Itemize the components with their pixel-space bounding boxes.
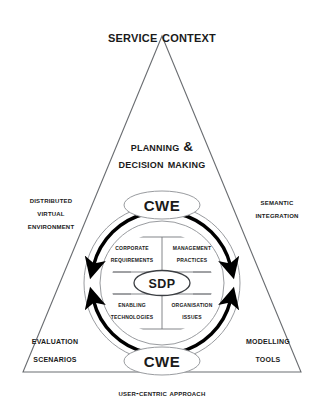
quadrant-label-management-practices-line1: Management [173,244,211,251]
planning-label-line1: Planning & [131,139,194,154]
base-caption: User-Centric Approach [119,389,206,398]
quadrant-label-corporate-requirements-line1: Corporate [115,244,149,251]
apex-title: Service Context [108,28,216,45]
quadrant-label-organisation-issues-line2: Issues [182,313,202,320]
cwe-bottom-label: CWE [144,353,181,370]
diagram-root: Service Context Planning & Decision Maki… [0,0,323,410]
service-context-diagram: Service Context Planning & Decision Maki… [0,0,323,410]
planning-label-line2: Decision Making [119,156,206,171]
evaluation-label-line2: Scenarios [33,353,77,364]
quadrant-label-enabling-technologies-line1: Enabling [118,301,146,308]
modelling-label-line1: Modelling [246,335,290,346]
cwe-top-label: CWE [144,197,181,214]
quadrant-label-corporate-requirements-line2: Requirements [111,256,154,263]
quadrant-label-management-practices-line2: Practices [177,256,208,263]
quadrant-label-organisation-issues-line1: Organisation [172,301,213,308]
distributed-label-line3: Environment [28,222,75,231]
modelling-label-line2: Tools [256,353,281,364]
quadrant-label-enabling-technologies-line2: Technologies [111,313,154,320]
sdp-label: SDP [149,277,176,291]
semantic-label-line1: Semantic [261,198,294,207]
semantic-label-line2: Integration [255,211,298,220]
evaluation-label-line1: Evaluation [32,335,78,346]
distributed-label-line2: Virtual [37,209,65,218]
distributed-label-line1: Distributed [30,196,73,205]
